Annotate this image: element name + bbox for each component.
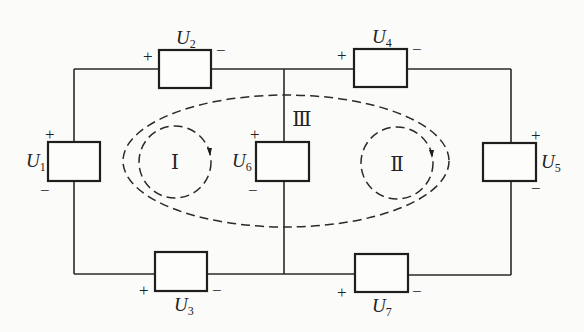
u6-plus-sign: + xyxy=(250,125,260,144)
element-u4 xyxy=(354,49,407,87)
element-u6 xyxy=(256,142,309,181)
element-u1 xyxy=(48,142,100,181)
u7-minus-sign: − xyxy=(412,282,422,301)
u4-minus-sign: − xyxy=(412,40,422,59)
label-u1: U1 xyxy=(26,150,46,174)
u1-minus-sign: − xyxy=(40,181,50,200)
u7-plus-sign: + xyxy=(337,283,347,302)
loop-i-label: Ⅰ xyxy=(171,151,179,173)
element-u2 xyxy=(159,50,211,88)
u3-plus-sign: + xyxy=(139,281,149,300)
label-u6: U6 xyxy=(232,150,252,174)
element-u5 xyxy=(483,143,536,181)
u2-minus-sign: − xyxy=(216,41,226,60)
circuit-diagram: Ⅰ Ⅱ Ⅲ U1 + − U2 + − U3 + − U4 + − U5 + −… xyxy=(0,0,584,332)
u4-plus-sign: + xyxy=(337,46,347,65)
label-u5: U5 xyxy=(541,151,561,175)
u3-minus-sign: − xyxy=(212,281,222,300)
loop-i-arrow-icon xyxy=(207,148,212,156)
u2-plus-sign: + xyxy=(143,47,153,66)
u1-plus-sign: + xyxy=(45,125,55,144)
label-u7: U7 xyxy=(372,295,392,319)
loop-ii-label: Ⅱ xyxy=(390,153,404,175)
label-u2: U2 xyxy=(176,27,196,51)
element-u3 xyxy=(155,252,207,291)
label-u3: U3 xyxy=(174,294,194,318)
element-u7 xyxy=(355,254,408,292)
u5-plus-sign: + xyxy=(531,126,541,145)
label-u4: U4 xyxy=(372,26,392,50)
u6-minus-sign: − xyxy=(248,181,258,200)
loop-ii-arrow-icon xyxy=(429,150,434,158)
u5-minus-sign: − xyxy=(531,179,541,198)
loop-iii-label: Ⅲ xyxy=(292,108,311,130)
